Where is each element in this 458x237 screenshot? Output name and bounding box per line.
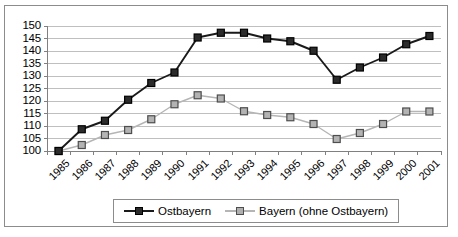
y-axis-tick-label: 110 — [11, 120, 41, 131]
chart-frame: 150145140135130125120115110105100 198519… — [4, 5, 448, 227]
y-axis-tick-label: 135 — [11, 58, 41, 69]
legend-label-ostbayern: Ostbayern — [158, 205, 211, 217]
y-axis-tick-label: 140 — [11, 45, 41, 56]
legend-label-bayern-ohne-ostbayern: Bayern (ohne Ostbayern) — [259, 205, 388, 217]
legend-marker-gray-square-icon — [225, 205, 255, 217]
y-axis-tick-label: 100 — [11, 145, 41, 156]
y-axis-tick-label: 125 — [11, 83, 41, 94]
plot-area: 150145140135130125120115110105100 198519… — [5, 6, 449, 228]
chart-canvas — [5, 6, 449, 228]
y-axis-tick-label: 150 — [11, 20, 41, 31]
y-axis-tick-label: 130 — [11, 70, 41, 81]
chart-legend: Ostbayern Bayern (ohne Ostbayern) — [113, 199, 399, 223]
y-axis-tick-label: 145 — [11, 33, 41, 44]
legend-item-ostbayern: Ostbayern — [124, 205, 211, 217]
y-axis-tick-label: 115 — [11, 108, 41, 119]
legend-marker-dark-square-icon — [124, 205, 154, 217]
y-axis-tick-label: 105 — [11, 133, 41, 144]
legend-item-bayern-ohne-ostbayern: Bayern (ohne Ostbayern) — [225, 205, 388, 217]
y-axis-tick-label: 120 — [11, 95, 41, 106]
